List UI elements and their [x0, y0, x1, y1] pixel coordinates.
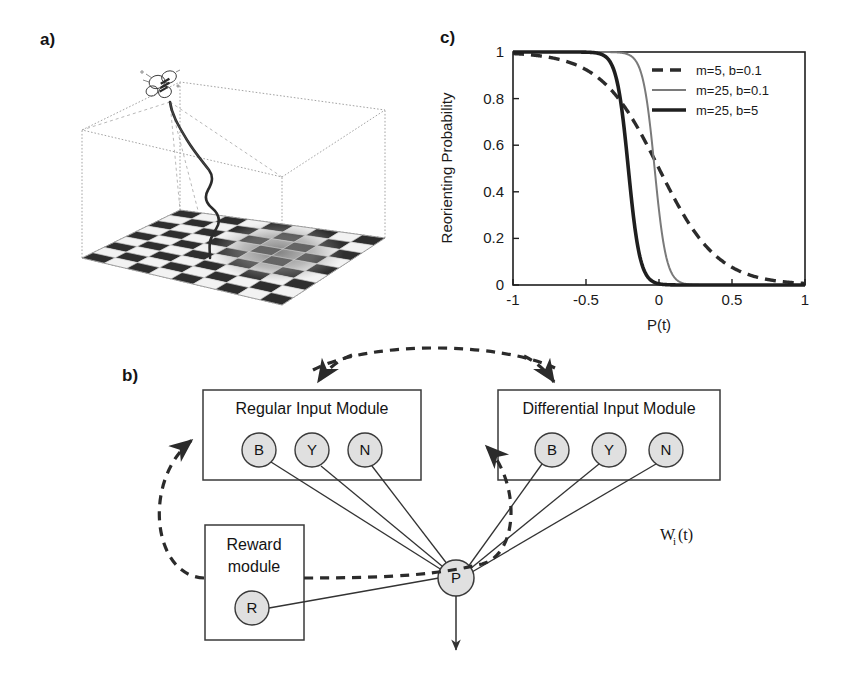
panel-b-diagram: Regular Input Module B Y N: [100, 350, 845, 689]
legend-label-2: m=25, b=5: [696, 103, 758, 118]
legend-label-1: m=25, b=0.1: [696, 83, 769, 98]
y-axis-tick-labels: 00.20.40.60.81: [483, 43, 504, 293]
node-label: B: [254, 441, 264, 458]
node-label: R: [247, 599, 258, 616]
node-reward-r[interactable]: R: [235, 591, 269, 625]
node-differential-y[interactable]: Y: [592, 433, 626, 467]
reorienting-probability-chart: -1-0.500.51 00.20.40.60.81 P(t) Reorient…: [430, 20, 830, 350]
y-tick-label: 0.2: [483, 229, 504, 246]
x-axis-tick-labels: -1-0.500.51: [506, 291, 809, 308]
panel-c-label: c): [440, 28, 455, 48]
weight-label: W i (t): [660, 526, 693, 547]
node-label: Y: [604, 441, 614, 458]
y-tick-label: 0.8: [483, 90, 504, 107]
x-tick-label: -0.5: [573, 291, 599, 308]
differential-input-nodes: B Y N: [535, 433, 683, 467]
x-tick-label: 0: [655, 291, 663, 308]
node-differential-n[interactable]: N: [649, 433, 683, 467]
checkerboard-floor: [82, 210, 385, 305]
y-tick-label: 1: [496, 43, 504, 60]
x-tick-label: -1: [506, 291, 519, 308]
node-label: B: [547, 441, 557, 458]
arrow-reward-to-regular: [159, 440, 204, 578]
figure-root: a) -1-0.500.51 00.20.40.60.81 P(t) Reori…: [0, 0, 845, 689]
arrow-to-differential-module: [524, 356, 554, 382]
regular-input-nodes: B Y N: [242, 433, 382, 467]
y-axis-title: Reorienting Probability: [438, 92, 455, 243]
panel-a-label: a): [40, 30, 55, 50]
flight-trajectory-highlight: [170, 102, 209, 170]
reward-module[interactable]: Reward module R: [205, 525, 304, 640]
differential-input-module[interactable]: Differential Input Module B Y N: [498, 390, 720, 480]
x-tick-label: 1: [801, 291, 809, 308]
node-label: N: [661, 441, 672, 458]
node-label: Y: [307, 441, 317, 458]
y-tick-label: 0.4: [483, 183, 504, 200]
panel-a: [20, 20, 430, 340]
legend-label-0: m=5, b=0.1: [696, 63, 762, 78]
node-regular-n[interactable]: N: [348, 433, 382, 467]
weight-label-subscript: i: [673, 535, 676, 547]
panel-b: Regular Input Module B Y N: [100, 350, 845, 689]
bee-icon: [141, 69, 180, 99]
node-differential-b[interactable]: B: [535, 433, 569, 467]
panel-b-label: b): [122, 366, 138, 386]
x-tick-label: 0.5: [722, 291, 743, 308]
top-feedback-arc: [313, 348, 555, 370]
panel-c: -1-0.500.51 00.20.40.60.81 P(t) Reorient…: [430, 20, 830, 350]
y-tick-label: 0.6: [483, 136, 504, 153]
differential-input-module-title: Differential Input Module: [522, 400, 695, 417]
node-regular-y[interactable]: Y: [295, 433, 329, 467]
y-tick-label: 0: [496, 276, 504, 293]
x-axis-title: P(t): [647, 316, 671, 333]
weight-label-suffix: (t): [678, 526, 693, 544]
regular-input-module-title: Regular Input Module: [236, 400, 389, 417]
regular-input-module[interactable]: Regular Input Module B Y N: [203, 390, 421, 480]
node-regular-b[interactable]: B: [242, 433, 276, 467]
node-label: N: [360, 441, 371, 458]
reward-module-title-line1: Reward: [226, 536, 281, 553]
panel-a-graphic: [20, 20, 430, 340]
reward-module-title-line2: module: [228, 558, 281, 575]
